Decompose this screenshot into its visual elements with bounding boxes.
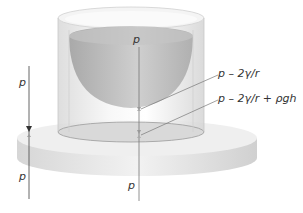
label-left-bottom-pressure: p	[19, 170, 26, 183]
diagram-graphic	[0, 0, 303, 213]
label-base-pressure: p – 2γ/r + ρgh	[218, 92, 296, 105]
capillary-diagram: p p p p p – 2γ/r p – 2γ/r + ρgh	[0, 0, 303, 213]
glass-cylinder	[58, 7, 204, 142]
label-center-bottom-pressure: p	[128, 179, 135, 192]
label-center-top-pressure: p	[133, 33, 140, 46]
label-meniscus-pressure: p – 2γ/r	[218, 67, 259, 80]
label-left-top-pressure: p	[19, 76, 26, 89]
